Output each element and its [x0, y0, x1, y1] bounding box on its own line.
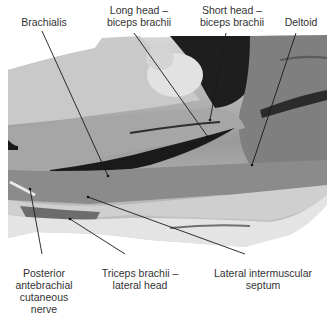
label-triceps-lateral-head: Triceps brachii – lateral head [90, 267, 190, 291]
label-posterior-antebrachial-cutaneous-nerve: Posterior antebrachial cutaneous nerve [8, 267, 80, 315]
label-long-head-biceps: Long head – biceps brachii [97, 4, 181, 28]
label-lateral-intermuscular-septum: Lateral intermuscular septum [205, 267, 321, 291]
label-short-head-biceps: Short head – biceps brachii [190, 4, 274, 28]
label-brachialis: Brachialis [14, 16, 74, 28]
anatomy-figure: Brachialis Long head – biceps brachii Sh… [0, 0, 333, 321]
label-deltoid: Deltoid [276, 16, 326, 28]
